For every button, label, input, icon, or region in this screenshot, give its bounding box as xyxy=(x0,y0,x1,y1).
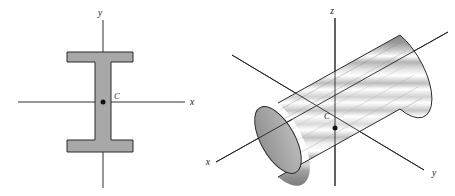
cylinder-centroid-label: C xyxy=(324,111,330,121)
cylinder-y-axis-label: y xyxy=(431,168,437,178)
cylinder-x-axis-label: x xyxy=(205,157,211,167)
i-beam-x-axis-label: x xyxy=(189,97,195,107)
i-beam-y-axis-label: y xyxy=(97,8,103,18)
figure-root: y x C xyxy=(0,0,455,196)
panel-i-beam-cross-section: y x C xyxy=(18,8,195,188)
i-beam-centroid-dot xyxy=(101,100,106,105)
figure-canvas: y x C xyxy=(0,0,455,196)
panel-circular-cylinder: z y x C xyxy=(205,6,448,186)
cylinder-z-axis-label: z xyxy=(329,6,334,16)
cylinder-centroid-dot xyxy=(333,126,338,131)
i-beam-centroid-label: C xyxy=(114,91,120,101)
